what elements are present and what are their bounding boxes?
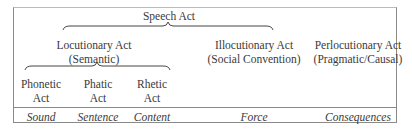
cell-consequences: Consequences	[318, 110, 398, 124]
cell-content: Content	[127, 110, 177, 124]
rhetic-act: Rhetic Act	[127, 77, 177, 105]
perlocutionary-act: Perlocutionary Act (Pragmatic/Causal)	[298, 38, 412, 66]
sublabel: Act	[16, 91, 66, 105]
sublabel: (Semantic)	[44, 52, 144, 66]
illocutionary-act: Illocutionary Act (Social Convention)	[194, 38, 314, 66]
phatic-act: Phatic Act	[73, 77, 123, 105]
sublabel: Act	[127, 91, 177, 105]
label: Phatic	[73, 77, 123, 91]
locutionary-act: Locutionary Act (Semantic)	[44, 38, 144, 66]
cell-force: Force	[224, 110, 284, 124]
phonetic-act: Phonetic Act	[16, 77, 66, 105]
label: Perlocutionary Act	[298, 38, 412, 52]
sublabel: (Pragmatic/Causal)	[298, 52, 412, 66]
label: Illocutionary Act	[194, 38, 314, 52]
label: Phonetic	[16, 77, 66, 91]
sublabel: Act	[73, 91, 123, 105]
sublabel: (Social Convention)	[194, 52, 314, 66]
label: Locutionary Act	[44, 38, 144, 52]
label: Rhetic	[127, 77, 177, 91]
speech-act-label: Speech Act	[138, 9, 200, 23]
cell-sentence: Sentence	[73, 110, 123, 124]
cell-sound: Sound	[16, 110, 66, 124]
